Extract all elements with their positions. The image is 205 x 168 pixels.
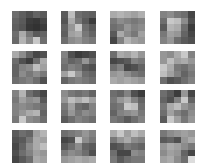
- pixel-cell: [19, 18, 26, 25]
- pixel-cell: [33, 116, 40, 123]
- image-tile: [110, 51, 145, 84]
- pixel-cell: [75, 11, 82, 18]
- pixel-cell: [19, 110, 26, 117]
- pixel-cell: [167, 150, 174, 157]
- pixel-cell: [26, 90, 33, 97]
- pixel-cell: [124, 24, 131, 31]
- pixel-cell: [68, 58, 75, 65]
- pixel-cell: [19, 51, 26, 58]
- pixel-cell: [138, 71, 145, 78]
- pixel-cell: [188, 77, 195, 84]
- pixel-cell: [19, 24, 26, 31]
- pixel-cell: [68, 137, 75, 144]
- pixel-cell: [124, 37, 131, 44]
- pixel-cell: [33, 18, 40, 25]
- pixel-cell: [110, 97, 117, 104]
- pixel-cell: [188, 71, 195, 78]
- pixel-cell: [181, 71, 188, 78]
- pixel-cell: [61, 150, 68, 157]
- pixel-cell: [181, 103, 188, 110]
- pixel-cell: [12, 156, 19, 163]
- pixel-cell: [160, 37, 167, 44]
- pixel-cell: [174, 97, 181, 104]
- pixel-cell: [68, 11, 75, 18]
- pixel-cell: [68, 90, 75, 97]
- pixel-cell: [82, 64, 89, 71]
- pixel-cell: [138, 156, 145, 163]
- pixel-cell: [26, 130, 33, 137]
- pixel-cell: [138, 143, 145, 150]
- pixel-cell: [188, 130, 195, 137]
- pixel-cell: [82, 37, 89, 44]
- pixel-cell: [19, 143, 26, 150]
- pixel-cell: [26, 143, 33, 150]
- pixel-cell: [61, 137, 68, 144]
- pixel-cell: [181, 156, 188, 163]
- pixel-cell: [89, 90, 96, 97]
- pixel-cell: [75, 156, 82, 163]
- pixel-cell: [26, 58, 33, 65]
- pixel-cell: [26, 11, 33, 18]
- pixel-cell: [68, 37, 75, 44]
- pixel-cell: [110, 90, 117, 97]
- pixel-cell: [167, 137, 174, 144]
- pixel-cell: [19, 116, 26, 123]
- pixel-cell: [124, 143, 131, 150]
- pixel-cell: [117, 110, 124, 117]
- pixel-cell: [174, 31, 181, 38]
- pixel-cell: [89, 64, 96, 71]
- pixel-cell: [138, 51, 145, 58]
- pixel-cell: [89, 150, 96, 157]
- pixel-cell: [82, 137, 89, 144]
- pixel-cell: [174, 24, 181, 31]
- pixel-cell: [181, 24, 188, 31]
- pixel-cell: [12, 90, 19, 97]
- pixel-cell: [174, 103, 181, 110]
- pixel-cell: [33, 156, 40, 163]
- pixel-cell: [131, 116, 138, 123]
- pixel-cell: [131, 156, 138, 163]
- pixel-cell: [19, 130, 26, 137]
- pixel-cell: [61, 11, 68, 18]
- pixel-cell: [12, 71, 19, 78]
- pixel-cell: [26, 37, 33, 44]
- pixel-cell: [75, 77, 82, 84]
- pixel-cell: [61, 97, 68, 104]
- pixel-cell: [160, 64, 167, 71]
- pixel-cell: [40, 116, 47, 123]
- pixel-cell: [75, 150, 82, 157]
- pixel-cell: [75, 71, 82, 78]
- pixel-cell: [110, 37, 117, 44]
- pixel-cell: [61, 110, 68, 117]
- pixel-cell: [33, 97, 40, 104]
- pixel-cell: [167, 156, 174, 163]
- pixel-cell: [89, 116, 96, 123]
- pixel-cell: [138, 116, 145, 123]
- pixel-cell: [124, 77, 131, 84]
- pixel-cell: [167, 130, 174, 137]
- pixel-cell: [181, 130, 188, 137]
- pixel-cell: [117, 130, 124, 137]
- pixel-cell: [188, 37, 195, 44]
- pixel-cell: [188, 97, 195, 104]
- pixel-cell: [117, 37, 124, 44]
- image-tile: [61, 90, 96, 123]
- pixel-cell: [131, 90, 138, 97]
- pixel-cell: [19, 77, 26, 84]
- pixel-cell: [82, 18, 89, 25]
- pixel-cell: [174, 71, 181, 78]
- pixel-cell: [12, 97, 19, 104]
- pixel-cell: [75, 24, 82, 31]
- pixel-cell: [167, 18, 174, 25]
- pixel-cell: [181, 37, 188, 44]
- pixel-cell: [131, 150, 138, 157]
- pixel-cell: [33, 71, 40, 78]
- pixel-cell: [117, 143, 124, 150]
- pixel-cell: [124, 150, 131, 157]
- pixel-cell: [61, 37, 68, 44]
- pixel-cell: [26, 156, 33, 163]
- pixel-cell: [68, 77, 75, 84]
- pixel-cell: [188, 51, 195, 58]
- pixel-cell: [181, 64, 188, 71]
- image-tile: [61, 130, 96, 163]
